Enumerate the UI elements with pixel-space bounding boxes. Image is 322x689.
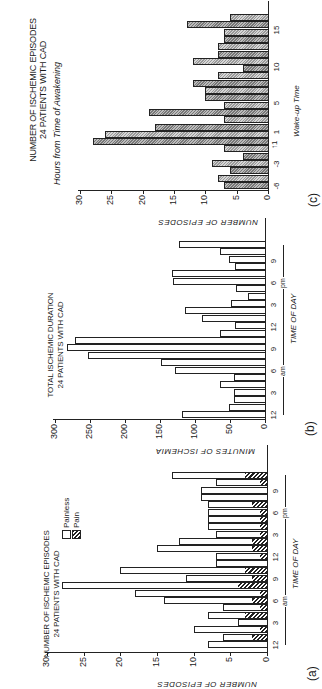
y-tick <box>237 190 238 194</box>
bar-15 <box>231 300 266 307</box>
x-tick-label: 12 <box>271 637 280 653</box>
bar-23 <box>179 241 266 248</box>
bar-20 <box>235 263 266 270</box>
y-tick-label: 15 <box>168 195 178 219</box>
x-axis-label: TIME OF DAY <box>291 539 300 589</box>
y-tick-label: 10 <box>188 657 198 681</box>
x-tick-label: 9 <box>269 253 278 269</box>
x-tick-label: 9 <box>271 483 280 499</box>
pm-label: pm <box>281 507 288 519</box>
y-axis-line <box>78 190 268 191</box>
x-tick-label: 12 <box>269 407 278 423</box>
pain-segment <box>245 473 267 478</box>
y-tick-label: 5 <box>231 195 241 219</box>
panel-c-chart: 051015202530-6-3151015NUMBER OF ISCHEMIC… <box>0 0 322 215</box>
y-axis-label: NUMBER OF EPISODES <box>158 218 258 227</box>
pain-segment <box>238 583 267 588</box>
panel-a-chart: 0510152025301236912369NUMBER OF ISCHEMIC… <box>0 444 322 689</box>
bar-13 <box>157 545 268 552</box>
bar-9 <box>218 73 269 80</box>
pm-label: pm <box>279 277 286 289</box>
bar--2 <box>243 153 269 160</box>
bar-3 <box>234 389 266 396</box>
bar-12 <box>235 322 266 329</box>
bar-4 <box>208 612 268 619</box>
y-tick <box>84 652 85 656</box>
y-tick <box>194 652 195 656</box>
legend-label: Pain <box>72 512 81 528</box>
bar-0 <box>182 411 266 418</box>
bar--5 <box>218 175 269 182</box>
pain-segment <box>252 635 267 640</box>
bar-15 <box>224 29 269 36</box>
y-tick-label: 20 <box>114 657 124 681</box>
y-tick <box>90 419 91 423</box>
am-pm-rule <box>285 475 286 645</box>
y-tick-label: 250 <box>84 424 94 448</box>
bar-17 <box>208 516 268 523</box>
bar-2 <box>155 124 269 131</box>
y-tick <box>143 190 144 194</box>
bar--4 <box>230 167 269 174</box>
chart-title: TOTAL ISCHEMIC DURATION <box>46 260 56 430</box>
bar-9 <box>186 575 268 582</box>
x-tick-label: 12 <box>269 319 278 335</box>
bar--1 <box>224 146 269 153</box>
bar-21 <box>201 487 268 494</box>
bar-23 <box>172 472 268 479</box>
bar-3 <box>238 619 268 626</box>
bar-0 <box>208 641 268 648</box>
y-tick <box>268 190 269 194</box>
bar-18 <box>208 509 268 516</box>
panel-letter: (a) <box>305 666 319 681</box>
y-tick-label: 5 <box>224 657 234 681</box>
am-label: am <box>279 365 286 377</box>
y-tick-label: 0 <box>262 195 272 219</box>
x-tick-label: 3 <box>271 615 280 631</box>
panel-letter: (c) <box>306 193 320 207</box>
pain-segment <box>260 591 267 596</box>
bar-16 <box>248 293 267 300</box>
pain-segment <box>252 546 267 551</box>
y-tick <box>174 190 175 194</box>
bar-5 <box>223 604 268 611</box>
y-tick <box>160 419 161 423</box>
bar--6 <box>224 182 269 189</box>
pain-segment <box>260 554 267 559</box>
bar-1 <box>229 404 266 411</box>
y-tick <box>111 190 112 194</box>
y-tick-label: 15 <box>151 657 161 681</box>
x-tick-label: 6 <box>269 275 278 291</box>
y-axis-line <box>53 419 265 420</box>
y-tick <box>195 419 196 423</box>
y-tick <box>80 190 81 194</box>
bar-11 <box>216 560 268 567</box>
wakeup-marker-icon: ↑1 <box>270 141 279 149</box>
bar-2 <box>194 626 268 633</box>
hours-subtitle: Hours from Time of Awakening <box>52 62 62 185</box>
bar-10 <box>75 337 266 344</box>
bar-2 <box>234 396 266 403</box>
legend: PainlessPain <box>62 498 82 539</box>
x-tick-label: 1 <box>272 124 281 140</box>
bar-5 <box>224 102 269 109</box>
y-tick-label: 10 <box>199 195 209 219</box>
chart-title: NUMBER OF ISCHEMIC EPISODES <box>28 5 38 175</box>
y-tick <box>205 190 206 194</box>
y-tick-label: 30 <box>74 195 84 219</box>
bar--3 <box>212 160 269 167</box>
bar-5 <box>234 374 266 381</box>
pain-segment <box>260 532 267 537</box>
y-tick <box>230 652 231 656</box>
bar-9 <box>67 344 266 351</box>
panel-letter: (b) <box>303 421 317 436</box>
x-tick-label: 3 <box>269 385 278 401</box>
bar-12 <box>218 51 269 58</box>
x-tick-label: 9 <box>271 571 280 587</box>
bar-14 <box>224 36 269 43</box>
bar-1 <box>223 634 268 641</box>
bar-21 <box>229 256 266 263</box>
chart-subtitle: 24 PATIENTS WITH CAD <box>52 509 62 679</box>
bar-6 <box>175 367 266 374</box>
am-label: am <box>281 595 288 607</box>
